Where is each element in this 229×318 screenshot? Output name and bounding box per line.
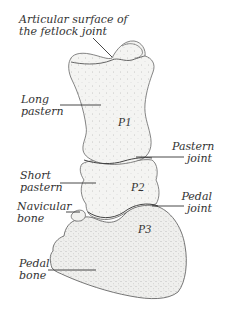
label-pedal-bone: Pedal bone bbox=[19, 258, 50, 282]
long-pastern-shape bbox=[69, 41, 154, 165]
bone-tag-p1: P1 bbox=[118, 115, 131, 130]
label-pastern-joint: Pastern joint bbox=[172, 141, 212, 165]
leader-articular-surface bbox=[93, 38, 112, 57]
label-articular-surface: Articular surface of the fetlock joint bbox=[19, 14, 128, 38]
label-long-pastern: Long pastern bbox=[21, 94, 64, 118]
label-pastern-joint-line2: joint bbox=[172, 153, 212, 165]
label-short-pastern: Short pastern bbox=[20, 170, 63, 194]
label-navicular-bone-line2: bone bbox=[17, 213, 72, 225]
label-articular-surface-line2: the fetlock joint bbox=[19, 26, 128, 38]
bone-tag-p3: P3 bbox=[138, 222, 151, 237]
label-navicular-bone: Navicular bone bbox=[17, 201, 72, 225]
label-pedal-bone-line2: bone bbox=[19, 270, 50, 282]
label-long-pastern-line2: pastern bbox=[21, 106, 64, 118]
label-pedal-joint: Pedal joint bbox=[172, 191, 212, 215]
label-pedal-joint-line2: joint bbox=[172, 203, 212, 215]
label-short-pastern-line2: pastern bbox=[20, 182, 63, 194]
bone-tag-p2: P2 bbox=[131, 180, 144, 195]
